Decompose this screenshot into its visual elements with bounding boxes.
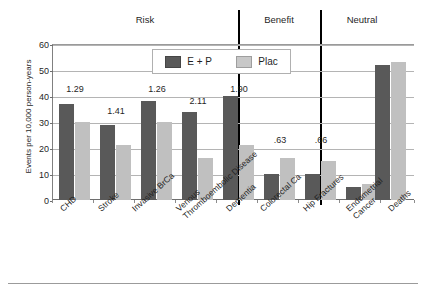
x-tick-6 xyxy=(298,200,299,203)
value-label-invasive-brca: 1.26 xyxy=(131,84,183,94)
value-label-stroke: 1.41 xyxy=(90,106,142,116)
legend-label-ep: E + P xyxy=(187,56,212,67)
footer-divider xyxy=(8,283,418,284)
group-header-band: Risk Benefit Neutral xyxy=(0,0,427,30)
y-tick-label-30: 30 xyxy=(39,118,49,128)
legend-label-plac: Plac xyxy=(258,56,277,67)
bar-stroke-ep xyxy=(100,125,115,200)
x-tick-9 xyxy=(414,200,415,203)
legend-swatch-plac-icon xyxy=(236,56,252,68)
legend-swatch-ep-icon xyxy=(165,56,181,68)
bar-group-chd xyxy=(56,44,94,200)
y-tick-label-60: 60 xyxy=(39,40,49,50)
x-tick-0 xyxy=(52,200,53,203)
legend-entry-ep[interactable]: E + P xyxy=(165,56,212,68)
bar-stroke-plac xyxy=(116,145,131,200)
y-tick-label-50: 50 xyxy=(39,66,49,76)
value-label-chd: 1.29 xyxy=(49,84,101,94)
x-axis-labels: CHD Stroke Invasive BrCa Venous Thromboe… xyxy=(52,200,414,280)
x-tick-7 xyxy=(339,200,340,203)
value-label-dementia: 1.90 xyxy=(213,84,265,94)
y-tick-label-0: 0 xyxy=(44,196,49,206)
bar-deaths-plac xyxy=(391,62,406,200)
group-label-neutral: Neutral xyxy=(322,14,402,25)
bar-chd-plac xyxy=(75,122,90,200)
bar-chd-ep xyxy=(59,104,74,200)
group-label-risk: Risk xyxy=(52,14,238,25)
chart-legend: E + P Plac xyxy=(152,49,291,74)
x-tick-4 xyxy=(216,200,217,203)
x-tick-5 xyxy=(257,200,258,203)
y-tick-label-10: 10 xyxy=(39,170,49,180)
x-tick-1 xyxy=(93,200,94,203)
legend-entry-plac[interactable]: Plac xyxy=(236,56,277,68)
x-tick-8 xyxy=(380,200,381,203)
value-label-hip-fractures: .66 xyxy=(295,135,347,145)
y-tick-label-20: 20 xyxy=(39,144,49,154)
y-axis-title: Events per 10,000 person-years xyxy=(24,42,33,192)
bar-chart: Risk Benefit Neutral Events per 10,000 p… xyxy=(0,0,427,295)
group-label-benefit: Benefit xyxy=(240,14,318,25)
bar-group-stroke xyxy=(97,44,135,200)
y-tick-label-40: 40 xyxy=(39,92,49,102)
value-label-venous-thromboembolic-disease: 2.11 xyxy=(172,96,224,106)
